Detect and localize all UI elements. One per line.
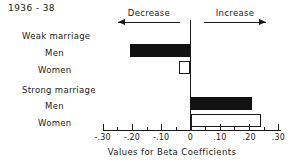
x-tick-label-10: -.10 [153, 133, 169, 142]
x-axis-title: Values for Beta Coefficients [0, 147, 300, 157]
x-tick-label-20: -.20 [124, 133, 140, 142]
bar-weak-women [179, 61, 191, 74]
x-tick-label-10: .10 [213, 133, 226, 142]
x-tick-label-30: -.30 [94, 133, 110, 142]
x-minor-tick [205, 127, 206, 131]
zero-reference-line [190, 20, 191, 131]
x-minor-tick [234, 127, 235, 131]
x-minor-tick [147, 127, 148, 131]
x-tick-label-30: .30 [272, 133, 285, 142]
x-tick-label-0: 0 [188, 133, 193, 142]
bar-strong-men [191, 97, 253, 110]
x-minor-tick [176, 127, 177, 131]
x-tick-30 [278, 124, 279, 131]
x-tick-20 [249, 124, 250, 131]
bar-weak-men [130, 44, 190, 57]
x-axis-title-text: Values for Beta Coefficients [108, 147, 237, 157]
x-minor-tick [117, 127, 118, 131]
bar-strong-women [191, 114, 261, 127]
x-tick-10 [220, 124, 221, 131]
beta-coefficients-chart: 1936 - 38 Decrease Increase Weak marriag… [0, 0, 300, 164]
x-minor-tick [264, 127, 265, 131]
x-tick-10 [161, 124, 162, 131]
x-tick-0 [191, 124, 192, 131]
x-axis-line [103, 130, 281, 131]
x-tick-30 [103, 124, 104, 131]
x-tick-label-20: .20 [242, 133, 255, 142]
x-tick-20 [132, 124, 133, 131]
